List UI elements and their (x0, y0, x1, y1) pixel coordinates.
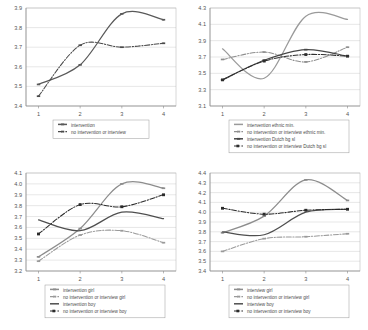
data-point (78, 228, 81, 230)
legend-label: interview boy (247, 302, 275, 307)
y-tick-label: 3.9 (14, 192, 22, 198)
data-point (221, 59, 224, 61)
panel-top-right: 3.13.33.53.73.94.14.31234intervention et… (184, 0, 368, 165)
y-tick-label: 3.1 (198, 103, 206, 109)
y-tick-label: 3.7 (14, 214, 22, 220)
panel-bottom-right-svg: 3.43.53.63.73.83.94.04.14.24.34.41234int… (184, 165, 368, 330)
legend-label: intervention boy (63, 302, 96, 307)
y-tick-label: 3.5 (14, 235, 22, 241)
data-point (262, 51, 265, 53)
data-point (346, 233, 349, 235)
legend-label: no intervention or interview Dutch bg sl (247, 144, 326, 149)
x-tick-label: 4 (346, 276, 349, 282)
legend-label: intervention girl (63, 288, 94, 293)
data-point (263, 60, 266, 63)
y-tick-label: 3.8 (14, 203, 22, 209)
legend-label: no intervention or interview girl (63, 295, 125, 300)
x-tick-label: 3 (304, 276, 307, 282)
x-tick-label: 2 (79, 111, 82, 117)
x-tick-label: 1 (37, 276, 40, 282)
legend-label: no intervention or interview (71, 130, 127, 135)
data-point (346, 200, 349, 202)
data-point (304, 53, 307, 56)
y-tick-label: 4.0 (198, 209, 206, 215)
legend-label: intervention ethnic min. (247, 123, 294, 128)
y-tick-label: 4.3 (198, 5, 206, 11)
data-point (37, 260, 40, 262)
data-point (162, 187, 165, 189)
legend-label: interview girl (247, 288, 273, 293)
data-point (262, 238, 265, 240)
y-tick-label: 3.7 (198, 54, 206, 60)
y-tick-label: 4.1 (198, 199, 206, 205)
data-point (304, 179, 307, 181)
panel-top-left-svg: 3.43.53.63.73.83.91234interventionno int… (0, 0, 184, 165)
x-tick-label: 1 (37, 111, 40, 117)
legend-marker-intervention Dutch bg sl (234, 138, 243, 140)
y-tick-label: 4.1 (198, 21, 206, 27)
series-line-1 (39, 42, 164, 96)
y-tick-label: 3.6 (14, 64, 22, 70)
y-tick-label: 3.7 (14, 44, 22, 50)
data-point (346, 55, 349, 58)
y-tick-label: 4.3 (198, 180, 206, 186)
series-line-2 (223, 50, 348, 80)
legend-marker-intervention girl (50, 289, 59, 291)
y-tick-label: 3.9 (198, 219, 206, 225)
legend-label: intervention (71, 123, 95, 128)
legend-label: no intervention or interview ethnic min. (247, 130, 325, 135)
x-tick-label: 3 (120, 111, 123, 117)
y-tick-label: 3.4 (198, 268, 206, 274)
x-tick-label: 2 (263, 111, 266, 117)
data-point (37, 95, 40, 97)
y-tick-label: 4.4 (198, 170, 206, 176)
data-point (120, 13, 123, 15)
plot-border (26, 8, 176, 106)
legend-label: no intervention or interview boy (247, 309, 311, 314)
y-tick-label: 3.3 (198, 87, 206, 93)
data-point (37, 256, 40, 258)
legend-marker-no intervention or interview ethnic min. (234, 131, 243, 133)
data-point (162, 19, 165, 21)
panel-bottom-right: 3.43.53.63.73.83.94.04.14.24.34.41234int… (184, 165, 368, 330)
x-tick-label: 3 (120, 276, 123, 282)
data-point (79, 203, 82, 206)
panel-bottom-left-svg: 3.23.33.43.53.63.73.83.94.04.11234interv… (0, 165, 184, 330)
legend-marker-interview girl (234, 289, 243, 291)
y-tick-label: 3.5 (198, 258, 206, 264)
x-tick-label: 1 (221, 276, 224, 282)
data-point (221, 78, 224, 81)
y-tick-label: 3.8 (198, 229, 206, 235)
legend-label: intervention Dutch bg sl (247, 137, 295, 142)
data-point (120, 46, 123, 48)
data-point (37, 84, 40, 86)
series-line-1 (223, 234, 348, 252)
data-point (162, 242, 165, 244)
y-tick-label: 4.2 (198, 190, 206, 196)
data-point (221, 207, 224, 210)
series-line-3 (223, 208, 348, 214)
y-tick-label: 3.4 (14, 103, 22, 109)
data-point (304, 61, 307, 63)
legend-marker-no intervention or interview boy (50, 310, 59, 313)
y-tick-label: 3.8 (14, 25, 22, 31)
x-tick-label: 4 (346, 111, 349, 117)
x-tick-label: 4 (162, 111, 165, 117)
legend-marker-no intervention or interview boy (234, 310, 243, 313)
x-tick-label: 2 (79, 276, 82, 282)
series-line-0 (223, 180, 348, 233)
legend-marker-no intervention or interview Dutch bg sl (234, 145, 243, 148)
y-tick-label: 3.7 (198, 239, 206, 245)
series-line-0 (223, 12, 348, 78)
data-point (37, 233, 40, 236)
series-line-2 (39, 212, 164, 231)
data-point (120, 183, 123, 185)
y-tick-label: 3.9 (198, 38, 206, 44)
data-point (304, 236, 307, 238)
y-tick-label: 4.1 (14, 170, 22, 176)
data-point (78, 234, 81, 236)
legend-label: no intervention or interview boy (63, 309, 127, 314)
x-tick-label: 1 (221, 111, 224, 117)
data-point (120, 230, 123, 232)
data-point (221, 251, 224, 253)
